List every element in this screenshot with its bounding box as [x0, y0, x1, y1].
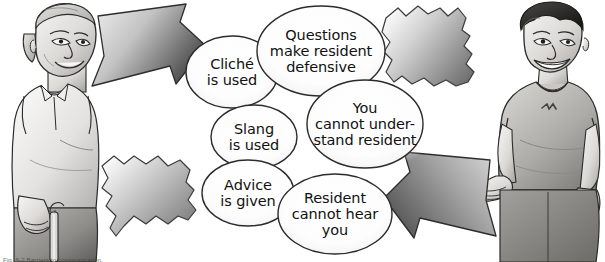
bubble-resident: [278, 174, 392, 254]
figure-artwork: [0, 0, 605, 262]
figure-caption: Fig. 8-2 Barriers to communication.: [3, 256, 103, 262]
resident-elderly-person: [12, 4, 99, 262]
bubble-slang: [211, 105, 297, 169]
blob-shape-upper-right: [382, 6, 474, 86]
communication-barriers-figure: Cliché is used Questions make resident d…: [0, 0, 605, 262]
bubble-you: [307, 80, 423, 168]
